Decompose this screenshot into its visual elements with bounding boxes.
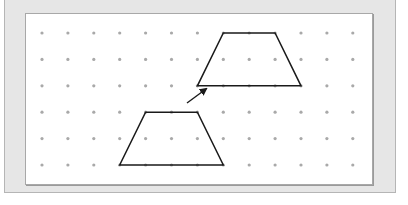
grid-dot xyxy=(325,58,328,61)
grid-dot xyxy=(274,137,277,140)
grid-dot xyxy=(351,84,354,87)
grid-dot xyxy=(299,111,302,114)
grid-dot xyxy=(248,111,251,114)
grid-dot xyxy=(144,58,147,61)
grid-dot xyxy=(299,31,302,34)
grid-dot xyxy=(325,137,328,140)
grid-dot xyxy=(40,58,43,61)
grid-dot xyxy=(66,111,69,114)
grid-dot xyxy=(170,31,173,34)
translation-arrow-icon xyxy=(187,89,206,103)
grid-dot xyxy=(144,137,147,140)
grid-dot xyxy=(92,58,95,61)
grid-dot xyxy=(325,111,328,114)
grid-dot xyxy=(92,84,95,87)
grid-dot xyxy=(325,31,328,34)
grid-dot xyxy=(196,31,199,34)
grid-dot xyxy=(92,137,95,140)
grid-dot xyxy=(325,163,328,166)
grid-dot xyxy=(222,111,225,114)
grid-dot xyxy=(118,111,121,114)
grid-dot xyxy=(66,31,69,34)
grid-dot xyxy=(40,111,43,114)
grid-dot xyxy=(196,137,199,140)
grid-dot xyxy=(222,58,225,61)
grid-dot xyxy=(274,163,277,166)
grid-dot xyxy=(144,84,147,87)
grid-dot xyxy=(299,58,302,61)
grid-dot xyxy=(248,58,251,61)
grid-dot xyxy=(299,137,302,140)
grid-dot xyxy=(66,163,69,166)
grid-dot xyxy=(196,58,199,61)
grid-dot xyxy=(325,84,328,87)
grid-dot xyxy=(118,58,121,61)
grid-dot xyxy=(222,137,225,140)
grid-dot xyxy=(248,137,251,140)
grid-dot xyxy=(299,163,302,166)
grid-dot xyxy=(66,137,69,140)
grid-dot xyxy=(351,163,354,166)
translation-diagram xyxy=(0,0,408,205)
grid-dot xyxy=(40,31,43,34)
dot-grid xyxy=(40,31,354,166)
grid-dot xyxy=(274,58,277,61)
grid-dot xyxy=(170,84,173,87)
shapes-layer xyxy=(120,33,301,165)
grid-dot xyxy=(92,111,95,114)
grid-dot xyxy=(118,84,121,87)
grid-dot xyxy=(351,31,354,34)
grid-dot xyxy=(92,163,95,166)
grid-dot xyxy=(274,111,277,114)
grid-dot xyxy=(351,58,354,61)
grid-dot xyxy=(92,31,95,34)
grid-dot xyxy=(66,58,69,61)
grid-dot xyxy=(170,58,173,61)
grid-dot xyxy=(40,84,43,87)
grid-dot xyxy=(118,31,121,34)
grid-dot xyxy=(351,111,354,114)
grid-dot xyxy=(118,137,121,140)
grid-dot xyxy=(351,137,354,140)
grid-dot xyxy=(144,31,147,34)
grid-dot xyxy=(248,163,251,166)
grid-dot xyxy=(40,137,43,140)
grid-dot xyxy=(66,84,69,87)
grid-dot xyxy=(170,137,173,140)
grid-dot xyxy=(40,163,43,166)
